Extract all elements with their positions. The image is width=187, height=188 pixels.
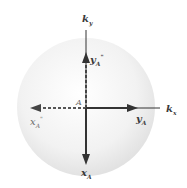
kx-axis-label: kx [166, 104, 177, 118]
yA-label: yA [136, 114, 146, 128]
ky-axis-label: ky [82, 14, 92, 28]
xA-label: xA [81, 168, 92, 182]
origin-label: A [76, 98, 82, 108]
xA-doubleprime-label: xA" [30, 114, 43, 131]
diagram-canvas [0, 0, 187, 188]
yA-doubleprime-label: yA" [90, 52, 104, 69]
